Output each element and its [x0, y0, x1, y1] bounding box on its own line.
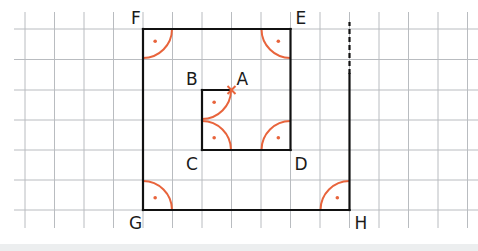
label-D: D: [295, 154, 308, 174]
right-angle-arc-F: [143, 29, 172, 58]
right-angle-arc-C: [202, 121, 231, 150]
label-C: C: [186, 154, 198, 174]
right-angle-dot-B: [212, 100, 216, 104]
right-angle-dot-G: [153, 196, 157, 200]
right-angle-arc-H: [321, 181, 350, 210]
segments: [143, 22, 350, 210]
label-A: A: [237, 69, 249, 89]
right-angle-dot-C: [212, 136, 216, 140]
label-G: G: [129, 213, 142, 233]
right-angle-arc-B: [202, 90, 231, 119]
right-angle-dot-H: [336, 196, 340, 200]
right-angle-dot-E: [277, 39, 281, 43]
right-angle-arc-D: [262, 121, 291, 150]
label-E: E: [296, 8, 307, 28]
right-angle-dot-D: [277, 136, 281, 140]
label-B: B: [186, 69, 198, 89]
right-angle-arc-E: [262, 29, 291, 58]
grid: [14, 12, 478, 228]
right-angle-arc-G: [143, 181, 172, 210]
label-F: F: [131, 8, 141, 28]
diagram-canvas: F E G H B A C D: [0, 0, 478, 251]
label-H: H: [355, 213, 368, 233]
right-angle-dot-F: [153, 39, 157, 43]
